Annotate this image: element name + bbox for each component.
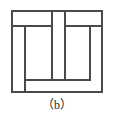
figure-panel-b: （b）: [0, 0, 114, 117]
floorplan-svg: [0, 0, 114, 98]
figure-caption: （b）: [0, 96, 114, 114]
floorplan-diagram: [0, 0, 114, 98]
